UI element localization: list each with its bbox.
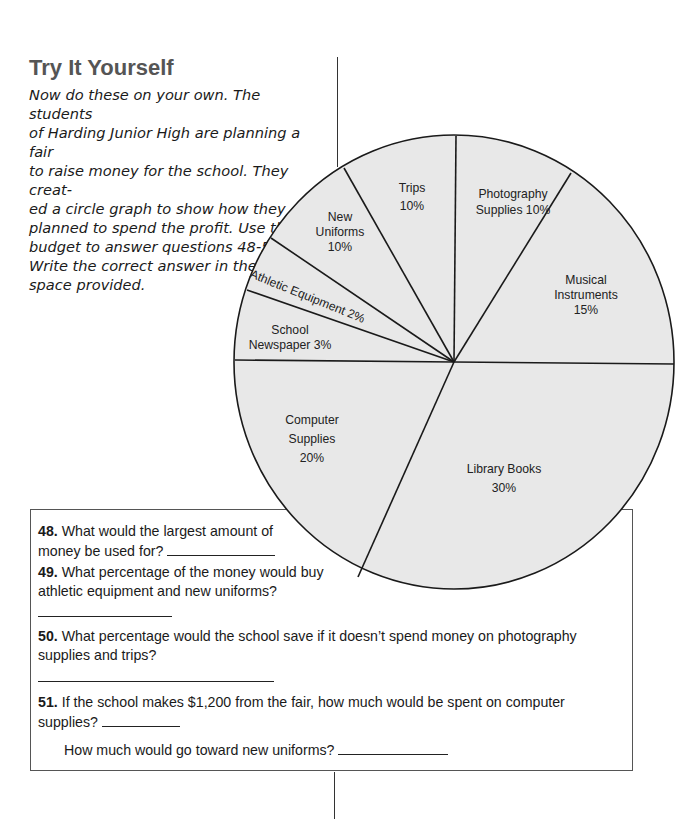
slice-label-computer: Computer [285, 413, 339, 427]
answer-blank-51a[interactable] [102, 712, 180, 727]
slice-label-library: Library Books [467, 462, 542, 476]
slice-value-uniforms: 10% [328, 240, 353, 254]
slice-value-musical: 15% [574, 303, 599, 317]
question-number: 50. [38, 628, 58, 644]
column-divider-bottom [334, 772, 335, 819]
slice-label-computer-2: Supplies [289, 432, 336, 446]
slice-value-computer: 20% [300, 451, 325, 465]
question-number: 48. [38, 523, 58, 539]
slice-label-musical-2: Instruments [554, 288, 618, 302]
question-number: 49. [38, 564, 58, 580]
slice-value-trips: 10% [400, 199, 425, 213]
question-number: 51. [38, 694, 58, 710]
answer-blank-48[interactable] [167, 541, 275, 556]
slice-value-library: 30% [492, 481, 517, 495]
question-49: 49. What percentage of the money would b… [38, 563, 324, 601]
slice-value-photography: Supplies 10% [476, 203, 551, 217]
answer-blank-49[interactable] [38, 616, 172, 617]
slice-value-newspaper: Newspaper 3% [249, 338, 332, 352]
question-50: 50. What percentage would the school sav… [38, 627, 577, 665]
slice-label-uniforms: New [328, 210, 353, 224]
question-48: 48. What would the largest amount of mon… [38, 522, 275, 561]
question-51: 51. If the school makes $1,200 from the … [38, 693, 565, 732]
slice-label-newspaper: School [271, 323, 308, 337]
answer-blank-50[interactable] [38, 681, 274, 682]
slice-label-uniforms-2: Uniforms [316, 225, 365, 239]
question-51-part-b: How much would go toward new uniforms? [64, 740, 448, 760]
slice-label-photography: Photography [478, 187, 548, 201]
slice-label-trips: Trips [399, 181, 426, 195]
answer-blank-51b[interactable] [338, 740, 448, 755]
slice-label-musical: Musical [565, 273, 606, 287]
